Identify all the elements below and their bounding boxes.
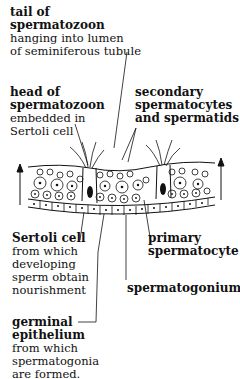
primary-spermatocyte-label: primary spermatocyte xyxy=(148,232,239,258)
sertoli-cell-label: Sertoli cell from which developing sperm… xyxy=(12,232,89,297)
label-title: and spermatids xyxy=(135,112,239,125)
label-desc: are formed. xyxy=(12,368,99,379)
tail-of-spermatozoon-label: tail of spermatozoon hanging into lumen … xyxy=(10,6,141,58)
label-title: spermatogonium xyxy=(127,282,240,295)
head-of-spermatozoon-label: head of spermatozoon embedded in Sertoli… xyxy=(10,86,105,138)
secondary-spermatocytes-label: secondary spermatocytes and spermatids xyxy=(135,86,239,125)
spermatogonium-label: spermatogonium xyxy=(127,282,240,295)
germinal-epithelium-label: germinal epithelium from which spermatog… xyxy=(12,316,99,379)
label-desc: of seminiferous tubule xyxy=(10,45,141,58)
label-desc: nourishment xyxy=(12,284,89,297)
label-title: spermatocyte xyxy=(148,245,239,258)
label-desc: Sertoli cell xyxy=(10,125,105,138)
